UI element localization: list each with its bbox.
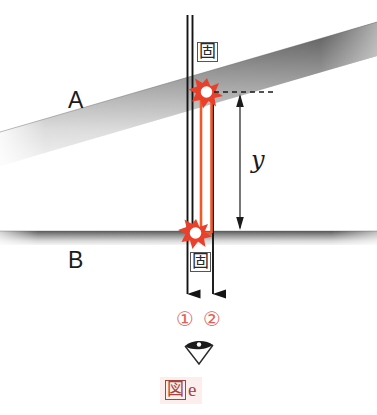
fixed-end-label-upper: 固 [197,42,218,62]
figure-container: A B 固 固 y ① ② 図 e [0,0,377,415]
fixed-end-label-lower: 固 [190,252,211,272]
ray-2-number: ② [203,309,221,329]
medium-b-label: B [68,249,83,272]
figure-caption: 図 e [160,377,202,404]
optics-diagram [0,0,377,415]
ray-1-number: ① [176,309,194,329]
distance-measure-arrow [236,94,244,230]
caption-letter: e [187,379,196,401]
distance-label-y: y [251,148,265,172]
medium-a-label: A [68,89,83,112]
caption-box-char: 図 [165,380,186,400]
displaced-ray-highlight [201,92,212,233]
medium-a-band [0,22,377,166]
eye-icon [185,341,213,364]
